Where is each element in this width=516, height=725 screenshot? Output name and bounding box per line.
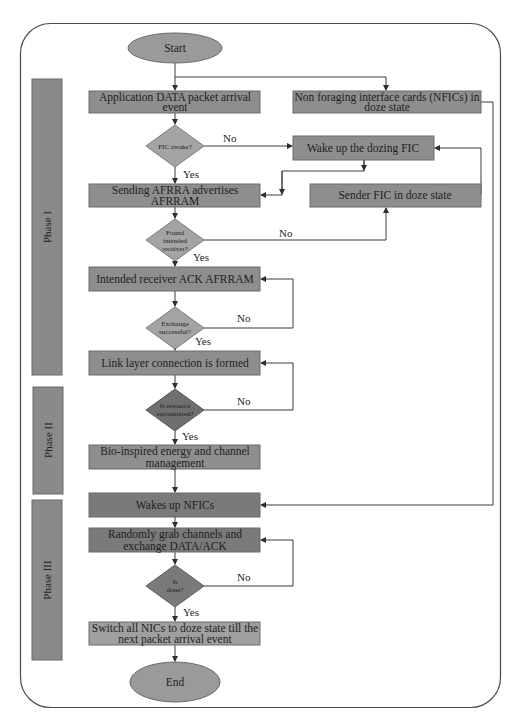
process-nfic-doze-line-2: doze state xyxy=(364,101,410,113)
phase-label-2: Phase II xyxy=(42,422,54,458)
process-sender-fic-doze: Sender FIC in doze state xyxy=(310,184,481,207)
edge-label-yes-done: Yes xyxy=(183,606,199,618)
process-sending-afrra-line-2: AFRRAM xyxy=(151,195,200,207)
phase-bar-3: Phase III xyxy=(32,500,62,660)
decision-found-receiver-line-1: Found xyxy=(166,229,184,237)
end-label: End xyxy=(166,676,185,688)
process-sender-fic-doze-label: Sender FIC in doze state xyxy=(338,189,451,201)
edge-label-no-resource: No xyxy=(237,395,251,407)
phase-bar-1: Phase I xyxy=(32,79,62,375)
process-link-layer: Link layer connection is formed xyxy=(89,351,260,375)
process-random-grab-line-2: exchange DATA/ACK xyxy=(123,540,227,553)
decision-found-receiver-line-3: receiver? xyxy=(162,245,188,253)
process-bio-inspired: Bio-inspired energy and channel manageme… xyxy=(89,445,260,470)
edge-label-no-exchange: No xyxy=(237,312,251,324)
flowchart-diagram: Phase I Phase II Phase III xyxy=(0,0,516,725)
process-app-data-line-2: event xyxy=(163,101,189,113)
process-switch-doze: Switch all NICs to doze state till the n… xyxy=(89,622,260,646)
process-link-layer-label: Link layer connection is formed xyxy=(101,357,249,370)
process-receiver-ack: Intended receiver ACK AFRRAM xyxy=(89,267,260,291)
phase-label-3: Phase III xyxy=(41,560,53,600)
decision-resource-line-2: encountered? xyxy=(156,410,193,418)
process-app-data: Application DATA packet arrival event xyxy=(89,91,260,113)
decision-done-line-1: Is xyxy=(172,578,177,586)
edge-label-yes-exchange: Yes xyxy=(195,335,211,347)
edge-label-no-done: No xyxy=(237,571,251,583)
edge-label-yes-found: Yes xyxy=(193,251,209,263)
edge-label-yes-fic: Yes xyxy=(183,168,199,180)
process-sending-afrra: Sending AFRRA advertises AFRRAM xyxy=(89,184,260,207)
process-nfic-doze: Non foraging interface cards (NFICs) in … xyxy=(293,91,481,113)
phase-label-1: Phase I xyxy=(41,211,53,243)
start-label: Start xyxy=(164,42,187,54)
decision-found-receiver-line-2: intended xyxy=(163,237,188,245)
decision-resource-line-1: Is resource xyxy=(160,402,191,410)
process-wakes-nfics-label: Wakes up NFICs xyxy=(136,499,215,512)
decision-exchange-ok-line-2: successful? xyxy=(159,328,191,336)
process-receiver-ack-label: Intended receiver ACK AFRRAM xyxy=(96,273,253,285)
edge-label-yes-resource: Yes xyxy=(182,430,198,442)
process-wake-fic: Wake up the dozing FIC xyxy=(293,136,434,160)
process-wake-fic-label: Wake up the dozing FIC xyxy=(307,142,419,155)
edge-label-no-found: No xyxy=(279,227,293,239)
edge-label-no-fic: No xyxy=(223,132,237,144)
process-bio-inspired-line-2: management xyxy=(146,457,206,470)
start-terminal: Start xyxy=(128,33,222,63)
decision-fic-awake-label: FIC awake? xyxy=(158,143,192,151)
end-terminal: End xyxy=(130,662,220,702)
process-wakes-nfics: Wakes up NFICs xyxy=(89,493,260,517)
decision-done-line-2: done? xyxy=(167,586,184,594)
decision-exchange-ok-line-1: Exchange xyxy=(161,320,189,328)
process-random-grab: Randomly grab channels and exchange DATA… xyxy=(89,528,260,553)
phase-bar-2: Phase II xyxy=(33,387,63,494)
process-switch-doze-line-2: next packet arrival event xyxy=(118,633,232,646)
